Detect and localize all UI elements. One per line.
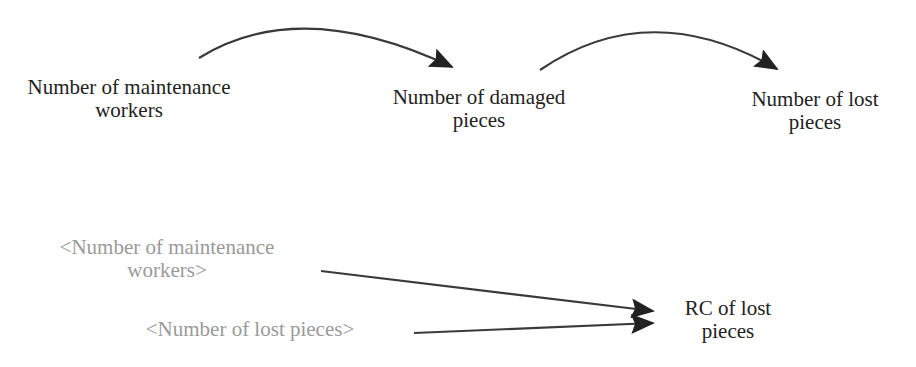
variable-label-line2: pieces (375, 109, 583, 132)
variable-label-line2: pieces (668, 320, 788, 343)
variable-lost-pieces[interactable]: Number of lost pieces (730, 88, 900, 134)
shadow-variable-lost-pieces[interactable]: <Number of lost pieces> (110, 318, 390, 341)
variable-maintenance-workers[interactable]: Number of maintenance workers (12, 76, 246, 122)
variable-label-line2: workers (12, 99, 246, 122)
link-damaged-to-lost (540, 32, 777, 70)
variable-rc-lost-pieces[interactable]: RC of lost pieces (668, 297, 788, 343)
variable-damaged-pieces[interactable]: Number of damaged pieces (375, 86, 583, 132)
variable-label-line1: RC of lost (668, 297, 788, 320)
shadow-label-line1: <Number of lost pieces> (110, 318, 390, 341)
variable-label-line1: Number of lost (730, 88, 900, 111)
link-shadow-workers-to-rc (321, 271, 653, 311)
shadow-label-line2: workers> (22, 259, 312, 282)
variable-label-line1: Number of maintenance (12, 76, 246, 99)
shadow-variable-maintenance-workers[interactable]: <Number of maintenance workers> (22, 236, 312, 282)
variable-label-line1: Number of damaged (375, 86, 583, 109)
shadow-label-line1: <Number of maintenance (22, 236, 312, 259)
variable-label-line2: pieces (730, 111, 900, 134)
link-shadow-lost-to-rc (414, 323, 653, 333)
diagram-canvas: Number of maintenance workers Number of … (0, 0, 916, 367)
link-workers-to-damaged (199, 29, 452, 67)
